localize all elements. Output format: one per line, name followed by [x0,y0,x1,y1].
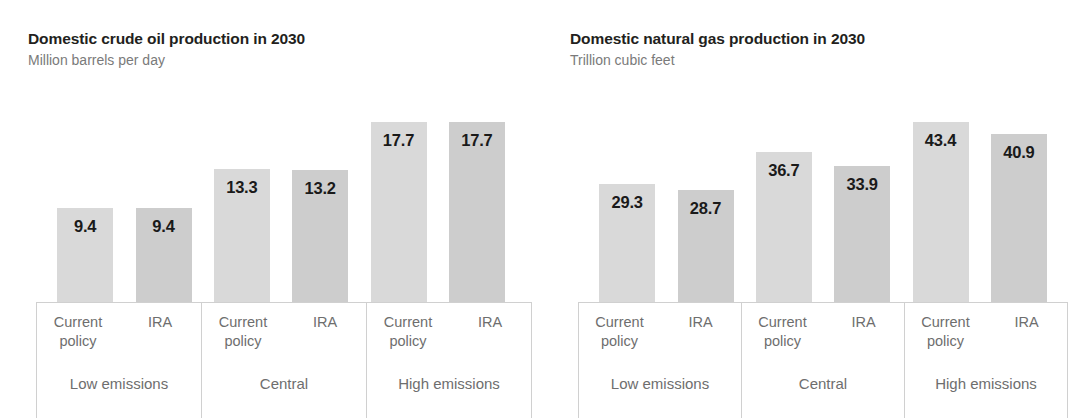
axis-label-line1: IRA [1014,314,1038,330]
axis-group-central: Current policy IRA Central [202,303,367,418]
axis-label-ira: IRA [449,313,531,351]
axis-label-ira: IRA [660,313,741,351]
axis-label-line1: Current [219,314,267,330]
bar-slot: 9.4 [46,86,124,302]
chart-subtitle: Trillion cubic feet [570,52,675,68]
axis-label-line2: policy [581,332,658,351]
bar-value-label: 9.4 [57,217,113,236]
axis-label-current-policy: Current policy [905,313,986,351]
bar-ira: 9.4 [136,208,192,302]
bar-ira: 13.2 [292,170,348,302]
axis-label-current-policy: Current policy [367,313,449,351]
series-labels: Current policy IRA [742,303,904,351]
bar-value-label: 43.4 [913,131,969,150]
bar-slot: 29.3 [588,86,666,302]
bar-value-label: 33.9 [834,175,890,194]
axis-label-line1: Current [384,314,432,330]
axis-label-ira: IRA [823,313,904,351]
bar-ira: 17.7 [449,122,505,302]
page-title: Domestic crude oil production in 2030 [28,30,305,48]
axis-label-line2: policy [369,332,447,351]
series-labels: Current policy IRA [579,303,741,351]
bar-value-label: 13.2 [292,179,348,198]
bar-group-high-emissions: 43.4 40.9 [901,86,1058,302]
bar-groups: 29.3 28.7 36.7 33.9 [588,86,1058,302]
bar-ira: 40.9 [991,134,1047,302]
bar-slot: 13.2 [281,86,359,302]
bar-slot: 40.9 [980,86,1058,302]
series-labels: Current policy IRA [202,303,366,351]
axis-group-high-emissions: Current policy IRA High emissions [367,303,531,418]
chart-subtitle: Million barrels per day [28,52,165,68]
bar-slot: 28.7 [666,86,744,302]
axis-label-line1: IRA [313,314,337,330]
axis-label-line1: Current [758,314,806,330]
bar-value-label: 29.3 [599,193,655,212]
axis-group-label: High emissions [367,375,531,392]
axis-label-line2: policy [204,332,282,351]
plot-area: 29.3 28.7 36.7 33.9 [588,86,1058,302]
bar-value-label: 36.7 [756,161,812,180]
bar-group-central: 36.7 33.9 [745,86,902,302]
axis-label-line2: policy [744,332,821,351]
axis-label-line1: Current [54,314,102,330]
bar-value-label: 28.7 [678,199,734,218]
axis-label-current-policy: Current policy [579,313,660,351]
axis-label-line1: Current [921,314,969,330]
bar-group-high-emissions: 17.7 17.7 [359,86,516,302]
axis-label-ira: IRA [119,313,201,351]
bar-ira: 28.7 [678,190,734,302]
bar-slot: 17.7 [359,86,437,302]
page-title: Domestic natural gas production in 2030 [570,30,865,48]
axis-group-label: Central [742,375,904,392]
plot-area: 9.4 9.4 13.3 [46,86,516,302]
axis-label-ira: IRA [986,313,1067,351]
chart-panel-crude-oil: Domestic crude oil production in 2030 Mi… [0,0,540,418]
bar-group-central: 13.3 13.2 [203,86,360,302]
bar-group-low-emissions: 9.4 9.4 [46,86,203,302]
bar-value-label: 17.7 [371,131,427,150]
series-labels: Current policy IRA [905,303,1067,351]
bar-value-label: 13.3 [214,178,270,197]
bar-groups: 9.4 9.4 13.3 [46,86,516,302]
axis-label-line1: IRA [851,314,875,330]
axis-group-low-emissions: Current policy IRA Low emissions [37,303,202,418]
axis-label-line1: IRA [478,314,502,330]
bar-slot: 13.3 [203,86,281,302]
bar-value-label: 40.9 [991,143,1047,162]
bar-current-policy: 17.7 [371,122,427,302]
axis-group-high-emissions: Current policy IRA High emissions [905,303,1067,418]
dual-bar-chart-figure: Domestic crude oil production in 2030 Mi… [0,0,1077,418]
axis-label-line1: IRA [148,314,172,330]
bar-slot: 33.9 [823,86,901,302]
axis-label-ira: IRA [284,313,366,351]
axis-label-line1: IRA [688,314,712,330]
axis-group-label: Low emissions [579,375,741,392]
axis-label-current-policy: Current policy [37,313,119,351]
x-axis-table: Current policy IRA Low emissions Current… [36,302,532,418]
axis-group-label: Central [202,375,366,392]
bar-value-label: 17.7 [449,131,505,150]
axis-group-central: Current policy IRA Central [742,303,905,418]
axis-group-label: Low emissions [37,375,201,392]
x-axis-table: Current policy IRA Low emissions Current… [578,302,1068,418]
bar-slot: 17.7 [438,86,516,302]
bar-slot: 9.4 [124,86,202,302]
bar-group-low-emissions: 29.3 28.7 [588,86,745,302]
axis-group-label: High emissions [905,375,1067,392]
bar-current-policy: 43.4 [913,122,969,302]
axis-label-line2: policy [907,332,984,351]
bar-slot: 36.7 [745,86,823,302]
axis-label-current-policy: Current policy [202,313,284,351]
bar-current-policy: 29.3 [599,184,655,302]
bar-current-policy: 13.3 [214,169,270,302]
axis-group-low-emissions: Current policy IRA Low emissions [579,303,742,418]
bar-ira: 33.9 [834,166,890,302]
bar-current-policy: 36.7 [756,152,812,302]
series-labels: Current policy IRA [367,303,531,351]
bar-current-policy: 9.4 [57,208,113,302]
bar-value-label: 9.4 [136,217,192,236]
axis-label-line2: policy [39,332,117,351]
bar-slot: 43.4 [901,86,979,302]
axis-label-line1: Current [595,314,643,330]
